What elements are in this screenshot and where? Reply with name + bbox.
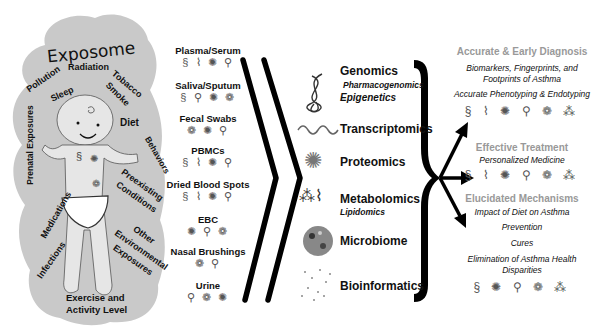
outcome-item: Accurate Phenotyping & Endotyping <box>437 89 607 100</box>
microbe-icon-body: ❁ <box>92 178 100 189</box>
factor-diet: Diet <box>120 117 139 128</box>
outcome-item: Footprints of Asthma <box>437 74 607 85</box>
factor-radiation: Radiation <box>68 62 109 72</box>
samples-item: Dried Blood Spots § ⌇ ✺ ⚲ <box>153 179 263 203</box>
outcome-icons: § ✺ ⚲ ❁ ⁂ <box>437 280 607 294</box>
omic-sub-lipidomics: Lipidomics <box>340 207 385 217</box>
sample-icons: ✺ ⚲ ❁ <box>153 225 263 238</box>
outcome-diagnosis: Accurate & Early Diagnosis Biomarkers, F… <box>437 46 607 118</box>
omic-genomics: Genomics <box>340 64 398 78</box>
outcome-treatment: Effective Treatment Personalized Medicin… <box>437 142 607 182</box>
outcome-item: Disparities <box>437 265 607 276</box>
factor-exercise-1: Exercise and <box>66 292 125 303</box>
sample-icons: ❁ ✺ ⚲ <box>153 124 263 137</box>
sample-icons: § ⌇ ✺ ⚲ <box>153 190 263 203</box>
sample-icons: § ⌇ ✺ ⚲ <box>153 156 263 169</box>
sample-label: EBC <box>153 214 263 225</box>
omic-metabolomics: Metabolomics <box>340 192 420 206</box>
omic-transcriptomics: Transcriptomics <box>340 122 433 136</box>
molecule-icon: ⁂⌇ <box>299 187 323 204</box>
sample-label: Urine <box>153 280 263 291</box>
outcome-item: Elimination of Asthma Health <box>437 254 607 265</box>
sample-label: Saliva/Sputum <box>153 80 263 91</box>
outcome-icons: § ⌇ ✺ ⚲ ❁ ⁂ <box>437 168 607 182</box>
sample-label: PBMCs <box>153 145 263 156</box>
outcome-item: Biomarkers, Fingerprints, and <box>437 63 607 74</box>
baby-eye-left <box>77 122 80 125</box>
outcome-item: Prevention <box>437 222 607 233</box>
outcome-icons: § ⌇ ✺ ⚲ ❁ ⁂ <box>437 104 607 118</box>
outcome-mechanisms: Elucidated Mechanisms Impact of Diet on … <box>437 193 607 294</box>
samples-item: PBMCs § ⌇ ✺ ⚲ <box>153 145 263 169</box>
sample-icons: ⚲ ❁ ✺ <box>153 291 263 304</box>
samples-item: Urine ⚲ ❁ ✺ <box>153 280 263 304</box>
sample-label: Dried Blood Spots <box>153 179 263 190</box>
factor-exercise-2: Activity Level <box>66 304 127 315</box>
baby-eye-right <box>97 124 100 127</box>
sample-label: Nasal Brushings <box>153 246 263 257</box>
network-dots-icon <box>301 269 331 301</box>
samples-item: Nasal Brushings ❁ ⚲ <box>153 246 263 270</box>
protein-structure-icon: ✺ <box>304 148 322 173</box>
sample-label: Fecal Swabs <box>153 113 263 124</box>
omic-bioinformatics: Bioinformatics <box>340 279 424 293</box>
outcome-item: Personalized Medicine <box>437 155 607 166</box>
factor-prenatal-exposures: Prenatal Exposures <box>25 105 35 184</box>
outcome-heading: Accurate & Early Diagnosis <box>437 46 607 57</box>
omic-proteomics: Proteomics <box>340 155 405 169</box>
dna-icon-body: § <box>76 150 82 162</box>
protein-icon-body: ✺ <box>90 153 98 164</box>
outcome-item: Impact of Diet on Asthma <box>437 207 607 218</box>
microbe-circle-icon <box>303 226 333 256</box>
omic-microbiome: Microbiome <box>340 234 407 248</box>
sample-icons: § ⚲ ✺ ❁ <box>153 91 263 104</box>
omic-sub-pharmacogenomics: Pharmacogenomics <box>343 80 424 90</box>
sample-icons: ❁ ⚲ <box>153 257 263 270</box>
omic-sub-epigenetics: Epigenetics <box>340 92 396 103</box>
dna-helix-icon <box>307 74 322 112</box>
outcome-item: Cures <box>437 238 607 249</box>
outcome-heading: Elucidated Mechanisms <box>437 193 607 204</box>
samples-column: Plasma/Serum § ⌇ ✺ ⚲ <box>153 45 263 69</box>
outcome-heading: Effective Treatment <box>437 142 607 153</box>
sample-label: Plasma/Serum <box>153 45 263 56</box>
sample-icons: § ⌇ ✺ ⚲ <box>153 56 263 69</box>
samples-item: EBC ✺ ⚲ ❁ <box>153 214 263 238</box>
samples-item: Fecal Swabs ❁ ✺ ⚲ <box>153 113 263 137</box>
rna-wave-icon <box>298 126 338 134</box>
chevron-2 <box>264 60 300 300</box>
samples-item: Saliva/Sputum § ⚲ ✺ ❁ <box>153 80 263 104</box>
